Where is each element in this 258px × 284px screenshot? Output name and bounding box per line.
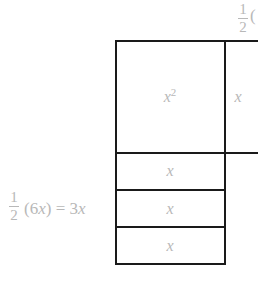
top-paren: ( xyxy=(250,6,256,26)
top-fraction-denominator: 2 xyxy=(239,20,247,35)
left-fraction-denominator: 2 xyxy=(10,208,18,223)
expr-var2: x xyxy=(78,199,86,218)
left-fraction: 1 2 xyxy=(9,190,19,223)
right-x-label: x xyxy=(230,88,246,106)
x-squared-exponent: 2 xyxy=(171,86,177,98)
x-strip-1-label: x xyxy=(160,162,180,180)
x-squared-base: x xyxy=(164,88,171,105)
expr-part-a: (6 xyxy=(24,199,38,218)
top-fraction: 1 2 xyxy=(238,2,248,35)
x-strip-2-label: x xyxy=(160,200,180,218)
left-expression: (6x) = 3x xyxy=(24,199,86,219)
x-strip-3-label: x xyxy=(160,237,180,255)
top-fraction-numerator: 1 xyxy=(239,2,247,17)
expr-part-b: ) = 3 xyxy=(46,199,78,218)
left-fraction-numerator: 1 xyxy=(10,190,18,205)
x-squared-label: x2 xyxy=(155,86,185,106)
expr-var: x xyxy=(38,199,46,218)
